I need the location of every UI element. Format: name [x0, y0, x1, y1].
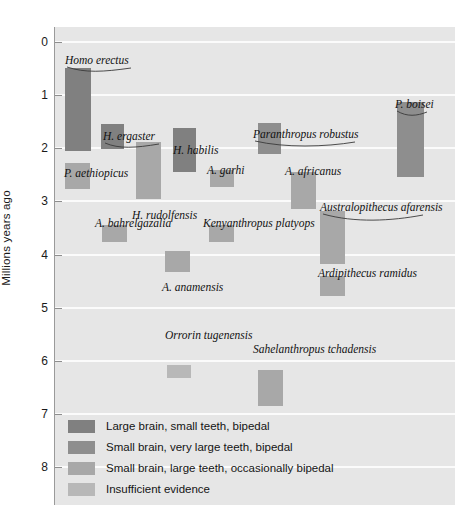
y-tick-label: 3 [22, 195, 48, 207]
legend-swatch [68, 462, 95, 475]
species-label: A. anamensis [162, 281, 223, 293]
species-bar [165, 251, 190, 272]
legend-label: Small brain, very large teeth, bipedal [106, 439, 293, 455]
species-label: Australopithecus afarensis [320, 201, 443, 213]
y-tick-label: 8 [22, 461, 48, 473]
species-label: H. habilis [173, 144, 218, 156]
species-label: A. garhi [207, 164, 245, 176]
y-tick [55, 255, 62, 256]
gridline [55, 360, 455, 362]
species-label: Sahelanthropus tchadensis [253, 343, 376, 355]
plot-area: Homo erectusH. ergasterH. habilisParanth… [55, 27, 455, 505]
species-label: P. aethiopicus [64, 167, 128, 179]
species-bar [136, 142, 161, 199]
chart-root: Homo erectusH. ergasterH. habilisParanth… [0, 0, 471, 527]
gridline [55, 413, 455, 415]
species-bar [291, 172, 316, 209]
y-tick [55, 95, 62, 96]
y-tick [55, 308, 62, 309]
species-label: Ardipithecus ramidus [318, 267, 417, 279]
gridline [55, 94, 455, 96]
gridline [55, 41, 455, 43]
species-label: Kenyanthropus platyops [203, 217, 315, 229]
y-tick-label: 5 [22, 302, 48, 314]
legend-label: Small brain, large teeth, occasionally b… [106, 460, 334, 476]
y-tick-label: 4 [22, 249, 48, 261]
y-tick [55, 201, 62, 202]
gridline [55, 307, 455, 309]
legend-swatch [68, 420, 95, 433]
y-tick-label: 0 [22, 36, 48, 48]
species-bar [65, 68, 91, 152]
y-axis-title: Millions years ago [0, 158, 12, 318]
species-label: A. bahrelgazalia [95, 217, 171, 229]
species-label: A. africanus [285, 165, 341, 177]
gridline [55, 254, 455, 256]
species-bar [320, 211, 345, 264]
legend-label: Large brain, small teeth, bipedal [106, 418, 270, 434]
species-label: H. ergaster [103, 130, 155, 142]
species-label: Paranthropus robustus [253, 128, 359, 140]
y-tick [55, 361, 62, 362]
y-tick-label: 1 [22, 89, 48, 101]
y-tick-label: 7 [22, 408, 48, 420]
species-label: Homo erectus [65, 54, 129, 66]
y-tick [55, 467, 62, 468]
species-bar [258, 370, 283, 406]
legend-swatch [68, 483, 95, 496]
legend-label: Insufficient evidence [106, 481, 210, 497]
y-tick [55, 148, 62, 149]
legend-swatch [68, 441, 95, 454]
y-tick [55, 414, 62, 415]
species-label: Orrorin tugenensis [165, 329, 252, 341]
y-tick-label: 2 [22, 142, 48, 154]
y-axis-line [54, 27, 55, 505]
species-bar [167, 365, 191, 378]
y-tick-label: 6 [22, 355, 48, 367]
y-tick [55, 42, 62, 43]
species-bar [397, 102, 424, 177]
species-label: P. boisei [395, 98, 434, 110]
